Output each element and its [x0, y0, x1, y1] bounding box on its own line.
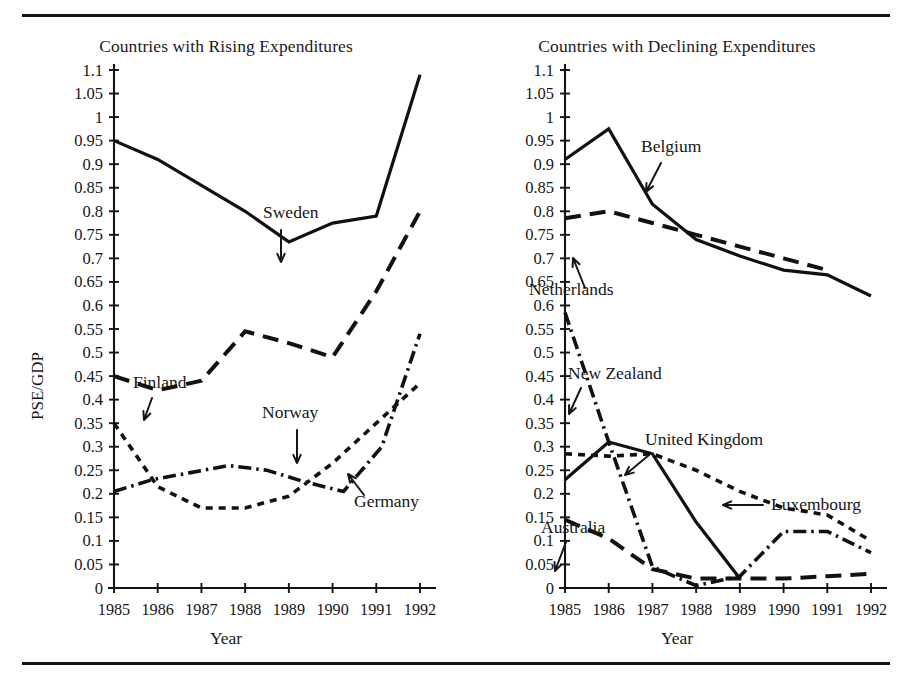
x-tick-label: 1986 — [593, 601, 625, 619]
y-tick-label: 0.65 — [74, 272, 103, 291]
series-annotation-label: Sweden — [263, 202, 319, 222]
x-tick-label: 1990 — [316, 601, 348, 619]
y-tick-label: 0.8 — [533, 202, 554, 221]
y-tick-label: 0 — [95, 579, 103, 598]
y-tick-label: 0.25 — [74, 461, 103, 480]
y-tick-label: 0.05 — [74, 555, 103, 574]
series-annotation-label: Luxembourg — [771, 494, 861, 514]
x-tick-label: 1988 — [229, 601, 261, 619]
series-line — [565, 313, 871, 586]
x-tick-label: 1986 — [142, 601, 174, 619]
y-tick-label: 0.55 — [525, 320, 554, 339]
y-tick-label: 0.5 — [82, 343, 103, 362]
y-tick-label: 1 — [546, 108, 554, 127]
y-tick-label: 0.8 — [82, 202, 103, 221]
y-tick-label: 0.9 — [533, 155, 554, 174]
x-tick-label: 1985 — [98, 601, 130, 619]
chart-panel-declining: Countries with Declining Expenditures PS… — [451, 20, 903, 660]
plot-area-right: 1.11.0510.950.90.850.80.750.70.650.60.55… — [451, 20, 903, 660]
y-tick-label: 0.35 — [74, 414, 103, 433]
y-tick-label: 0.45 — [74, 367, 103, 386]
y-tick-label: 0.05 — [525, 555, 554, 574]
series-line — [565, 442, 740, 579]
figure-container: Countries with Rising Expenditures PSE/G… — [0, 0, 903, 678]
series-annotation-label: Finland — [133, 372, 187, 392]
y-tick-label: 1.1 — [82, 61, 103, 80]
y-tick-label: 0.2 — [82, 484, 103, 503]
plot-area-left: 1.11.0510.950.90.850.80.750.70.650.60.55… — [0, 20, 452, 660]
series-line — [114, 211, 420, 390]
y-tick-label: 0.85 — [74, 178, 103, 197]
y-tick-label: 0.9 — [82, 155, 103, 174]
x-tick-label: 1990 — [767, 601, 799, 619]
y-tick-label: 0.55 — [74, 320, 103, 339]
y-tick-label: 0.7 — [533, 249, 554, 268]
y-tick-label: 0.85 — [525, 178, 554, 197]
y-tick-label: 0.4 — [533, 390, 554, 409]
y-tick-label: 0.45 — [525, 367, 554, 386]
annotation-arrow-luxembourg — [723, 501, 763, 508]
y-tick-label: 0.5 — [533, 343, 554, 362]
y-tick-label: 0.25 — [525, 461, 554, 480]
x-tick-label: 1989 — [724, 601, 756, 619]
y-tick-label: 0.75 — [74, 225, 103, 244]
x-tick-label: 1992 — [855, 601, 887, 619]
y-tick-label: 1 — [95, 108, 103, 127]
y-tick-label: 0.4 — [82, 390, 103, 409]
x-tick-label: 1992 — [404, 601, 436, 619]
series-annotation-label: New Zealand — [568, 363, 662, 383]
annotation-arrow-norway — [293, 430, 300, 463]
y-tick-label: 0.95 — [525, 131, 554, 150]
x-tick-label: 1987 — [185, 601, 217, 619]
y-tick-label: 0.3 — [82, 437, 103, 456]
chart-panel-rising: Countries with Rising Expenditures PSE/G… — [0, 20, 452, 660]
annotation-arrow-finland — [143, 398, 152, 420]
y-tick-label: 0.35 — [525, 414, 554, 433]
y-tick-label: 0.2 — [533, 484, 554, 503]
x-tick-label: 1988 — [680, 601, 712, 619]
x-tick-label: 1987 — [636, 601, 668, 619]
bottom-rule — [22, 662, 890, 665]
y-tick-label: 1.1 — [533, 61, 554, 80]
series-line — [565, 129, 871, 296]
series-annotation-label: United Kingdom — [645, 429, 764, 449]
y-tick-label: 0.3 — [533, 437, 554, 456]
y-tick-label: 0.75 — [525, 225, 554, 244]
y-tick-label: 1.05 — [74, 84, 103, 103]
y-tick-label: 0.95 — [74, 131, 103, 150]
y-tick-label: 0 — [546, 579, 554, 598]
series-annotation-label: Netherlands — [529, 279, 614, 299]
annotation-arrow-belgium — [646, 163, 661, 192]
annotation-arrow-newzealand — [569, 388, 581, 414]
x-tick-label: 1985 — [549, 601, 581, 619]
x-tick-label: 1991 — [811, 601, 843, 619]
x-tick-label: 1989 — [273, 601, 305, 619]
y-tick-label: 0.1 — [82, 531, 103, 550]
y-tick-label: 0.7 — [82, 249, 103, 268]
x-tick-label: 1991 — [360, 601, 392, 619]
y-tick-label: 0.6 — [82, 296, 103, 315]
series-annotation-label: Norway — [262, 402, 319, 422]
top-rule — [22, 14, 890, 17]
y-tick-label: 1.05 — [525, 84, 554, 103]
series-annotation-label: Belgium — [641, 136, 702, 156]
annotation-arrow-uk — [625, 455, 649, 475]
series-annotation-label: Australia — [541, 517, 605, 537]
y-tick-label: 0.15 — [74, 508, 103, 527]
